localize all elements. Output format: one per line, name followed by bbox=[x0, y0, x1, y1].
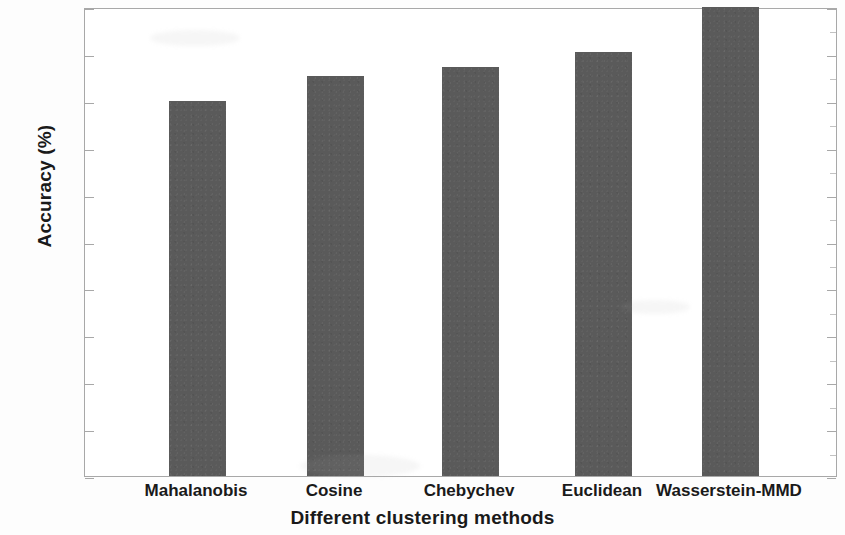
y-axis-tick-mark-right bbox=[827, 290, 836, 291]
y-axis-minor-tick-mark-right bbox=[830, 32, 836, 33]
y-axis-minor-tick-mark-right bbox=[830, 126, 836, 127]
y-axis-tick-mark-right bbox=[827, 478, 836, 479]
y-axis-tick-mark bbox=[85, 290, 94, 291]
bar bbox=[442, 67, 499, 476]
x-axis-tick-label: Mahalanobis bbox=[145, 481, 248, 501]
x-axis-title: Different clustering methods bbox=[0, 507, 845, 529]
bar bbox=[169, 101, 226, 476]
y-axis-minor-tick-mark-right bbox=[830, 267, 836, 268]
y-axis-title: Accuracy (%) bbox=[34, 56, 56, 316]
y-axis-minor-tick-mark-right bbox=[830, 220, 836, 221]
y-axis-tick-mark bbox=[85, 478, 94, 479]
bar bbox=[575, 52, 632, 476]
y-axis-tick-mark bbox=[85, 9, 94, 10]
y-axis-tick-mark bbox=[85, 150, 94, 151]
y-axis-minor-tick-mark-right bbox=[830, 361, 836, 362]
y-axis-tick-mark bbox=[85, 197, 94, 198]
y-axis-minor-tick-mark-right bbox=[830, 314, 836, 315]
x-axis-tick-label: Cosine bbox=[306, 481, 363, 501]
y-axis-minor-tick-mark-right bbox=[830, 79, 836, 80]
y-axis-tick-mark bbox=[85, 56, 94, 57]
y-axis-tick-mark-right bbox=[827, 244, 836, 245]
bar-chart-figure: Accuracy (%) 0102030405060708090100 Maha… bbox=[0, 0, 845, 535]
y-axis-minor-tick-mark-right bbox=[830, 455, 836, 456]
y-axis-tick-mark-right bbox=[827, 103, 836, 104]
x-axis-tick-label: Euclidean bbox=[562, 481, 642, 501]
x-axis-tick-label: Wasserstein-MMD bbox=[656, 481, 802, 501]
y-axis-tick-mark-right bbox=[827, 56, 836, 57]
y-axis-tick-mark-right bbox=[827, 431, 836, 432]
y-axis-tick-mark-right bbox=[827, 9, 836, 10]
y-axis-tick-mark bbox=[85, 103, 94, 104]
bar bbox=[702, 7, 759, 476]
x-axis-tick-label: Chebychev bbox=[424, 481, 515, 501]
y-axis-tick-mark bbox=[85, 384, 94, 385]
y-axis-minor-tick-mark-right bbox=[830, 173, 836, 174]
y-axis-tick-mark bbox=[85, 431, 94, 432]
y-axis-tick-mark-right bbox=[827, 384, 836, 385]
y-axis-tick-mark-right bbox=[827, 150, 836, 151]
y-axis-tick-mark-right bbox=[827, 197, 836, 198]
y-axis-tick-mark-right bbox=[827, 337, 836, 338]
plot-area bbox=[84, 8, 837, 477]
y-axis-tick-mark bbox=[85, 337, 94, 338]
bar bbox=[307, 76, 364, 476]
y-axis-tick-mark bbox=[85, 244, 94, 245]
y-axis-minor-tick-mark-right bbox=[830, 408, 836, 409]
